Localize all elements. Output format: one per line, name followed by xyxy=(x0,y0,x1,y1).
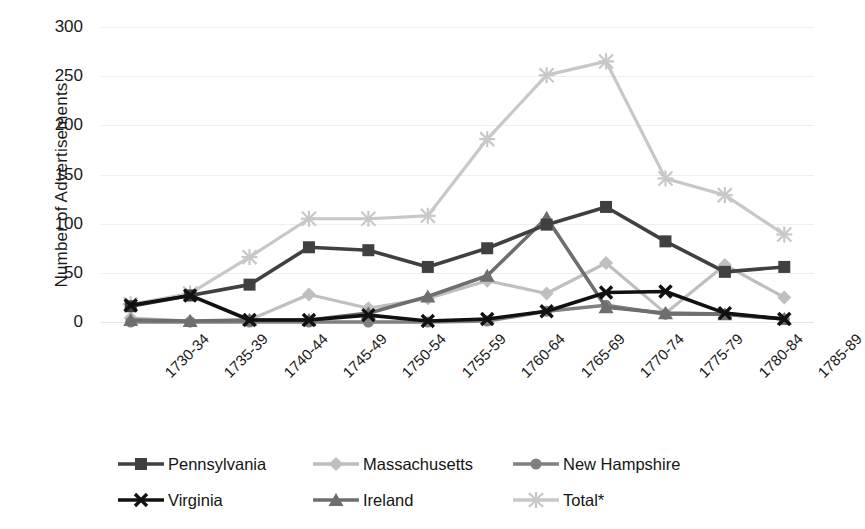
x-axis-tick-label: 1755-59 xyxy=(458,330,509,381)
legend-label: Virginia xyxy=(168,491,223,510)
asterisk-marker xyxy=(598,53,614,69)
legend-item-ireland[interactable]: Ireland xyxy=(313,491,513,510)
series-line xyxy=(131,207,785,306)
diamond-marker xyxy=(313,455,359,473)
legend-item-virginia[interactable]: Virginia xyxy=(118,491,313,510)
asterisk-marker xyxy=(420,208,436,224)
asterisk-marker xyxy=(242,249,258,265)
x-axis-tick-label: 1760-64 xyxy=(517,330,568,381)
x-axis-tick-label: 1780-84 xyxy=(755,330,806,381)
series-pennsylvania xyxy=(125,201,791,312)
legend-item-new-hampshire[interactable]: New Hampshire xyxy=(513,455,743,474)
square-marker xyxy=(303,241,315,253)
x-marker xyxy=(118,491,164,509)
legend-label: Total* xyxy=(563,491,604,510)
y-axis-tick-label: 300 xyxy=(23,17,83,37)
square-marker xyxy=(362,244,374,256)
x-axis-tick-label: 1775-79 xyxy=(696,330,747,381)
legend-label: Pennsylvania xyxy=(168,455,266,474)
diamond-marker xyxy=(777,290,791,304)
y-axis-tick-label: 150 xyxy=(23,165,83,185)
asterisk-marker xyxy=(539,67,555,83)
asterisk-marker xyxy=(657,170,673,186)
chart-legend: PennsylvaniaMassachusettsNew HampshireVi… xyxy=(118,446,818,518)
square-marker xyxy=(118,455,164,473)
y-axis-tick-label: 200 xyxy=(23,115,83,135)
plot-area xyxy=(101,27,814,322)
series-massachusetts xyxy=(124,256,792,328)
square-marker xyxy=(541,219,553,231)
square-marker xyxy=(659,235,671,247)
x-axis-tick-label: 1785-89 xyxy=(814,330,865,381)
y-axis-tick-label: 100 xyxy=(23,214,83,234)
asterisk-marker xyxy=(479,131,495,147)
diamond-marker xyxy=(302,287,316,301)
y-axis-tick-labels: 050100150200250300 xyxy=(23,27,83,322)
square-marker xyxy=(422,261,434,273)
legend-item-pennsylvania[interactable]: Pennsylvania xyxy=(118,455,313,474)
circle-marker xyxy=(531,459,542,470)
y-axis-tick-label: 250 xyxy=(23,66,83,86)
x-axis-tick-label: 1735-39 xyxy=(220,330,271,381)
diamond-marker xyxy=(540,286,554,300)
legend-item-total[interactable]: Total* xyxy=(513,491,743,510)
x-axis-tick-label: 1730-34 xyxy=(161,330,212,381)
legend-label: New Hampshire xyxy=(563,455,680,474)
legend-label: Massachusetts xyxy=(363,455,473,474)
x-axis-tick-label: 1770-74 xyxy=(636,330,687,381)
y-axis-tick-label: 50 xyxy=(23,263,83,283)
y-axis-tick-label: 0 xyxy=(23,312,83,332)
asterisk-marker xyxy=(301,211,317,227)
square-marker xyxy=(244,279,256,291)
x-axis-tick-label: 1765-69 xyxy=(577,330,628,381)
asterisk-marker xyxy=(360,211,376,227)
x-axis-tick-labels: 1730-341735-391740-441745-491750-541755-… xyxy=(101,330,814,420)
asterisk-marker xyxy=(513,491,559,509)
square-marker xyxy=(135,458,147,470)
circle-marker xyxy=(513,455,559,473)
asterisk-marker xyxy=(528,492,544,508)
triangle-marker xyxy=(313,491,359,509)
square-marker xyxy=(778,261,790,273)
series-layer xyxy=(101,27,814,322)
series-line xyxy=(131,61,785,304)
legend-label: Ireland xyxy=(363,491,413,510)
square-marker xyxy=(481,242,493,254)
x-axis-tick-label: 1740-44 xyxy=(280,330,331,381)
asterisk-marker xyxy=(717,187,733,203)
x-axis-tick-label: 1750-54 xyxy=(399,330,450,381)
square-marker xyxy=(600,201,612,213)
x-axis-tick-label: 1745-49 xyxy=(339,330,390,381)
asterisk-marker xyxy=(776,226,792,242)
legend-item-massachusetts[interactable]: Massachusetts xyxy=(313,455,513,474)
series-total xyxy=(123,53,793,312)
diamond-marker xyxy=(329,457,343,471)
square-marker xyxy=(719,266,731,278)
